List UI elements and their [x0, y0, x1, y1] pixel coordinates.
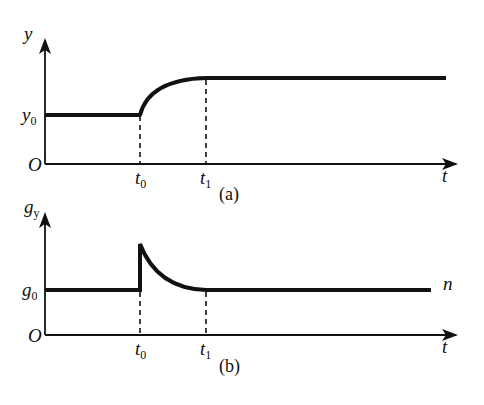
panel-b-origin-label: O	[28, 325, 42, 346]
panel-b-t1-label: t1	[200, 338, 211, 362]
panel-b: gy g0 O n t0 t1 t (b)	[22, 196, 456, 377]
panel-a-y-axis-label: y	[22, 23, 33, 44]
panel-a-origin-label: O	[28, 154, 42, 175]
panel-b-caption: (b)	[219, 356, 240, 377]
panel-b-n-label: n	[443, 273, 453, 294]
panel-a-caption: (a)	[219, 184, 239, 205]
panel-b-response-curve	[45, 244, 431, 290]
panel-b-y-axis-label: gy	[24, 196, 40, 220]
panel-a: y y0 O t0 t1 t (a)	[20, 23, 456, 205]
panel-b-t0-label: t0	[135, 338, 146, 362]
response-diagram: y y0 O t0 t1 t (a) gy g0 O n t0 t1 t (b)	[0, 0, 484, 405]
panel-b-g0-label: g0	[22, 279, 38, 303]
panel-a-t1-label: t1	[200, 167, 211, 191]
panel-a-t0-label: t0	[135, 167, 146, 191]
panel-a-y0-label: y0	[20, 104, 36, 128]
panel-a-x-axis-label: t	[442, 165, 448, 186]
panel-a-response-curve	[45, 78, 446, 115]
panel-b-x-axis-label: t	[442, 336, 448, 357]
